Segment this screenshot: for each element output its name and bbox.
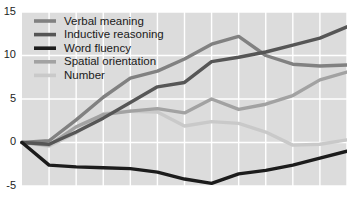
chart-container: 151050-5 Verbal meaningInductive reasoni… <box>0 0 347 206</box>
y-axis-tick-label: -5 <box>6 179 16 191</box>
legend-label-number: Number <box>64 69 105 81</box>
y-axis-tick-label: 15 <box>4 5 16 17</box>
y-axis-tick-label: 10 <box>4 48 16 60</box>
legend-label-inductive-reasoning: Inductive reasoning <box>64 28 164 40</box>
legend-label-word-fluency: Word fluency <box>64 42 131 54</box>
legend-label-verbal-meaning: Verbal meaning <box>64 15 144 27</box>
legend-label-spatial-orientation: Spatial orientation <box>64 55 156 67</box>
y-axis-tick-label: 5 <box>10 92 16 104</box>
y-axis-tick-label: 0 <box>10 135 16 147</box>
line-chart: 151050-5 Verbal meaningInductive reasoni… <box>0 0 347 206</box>
